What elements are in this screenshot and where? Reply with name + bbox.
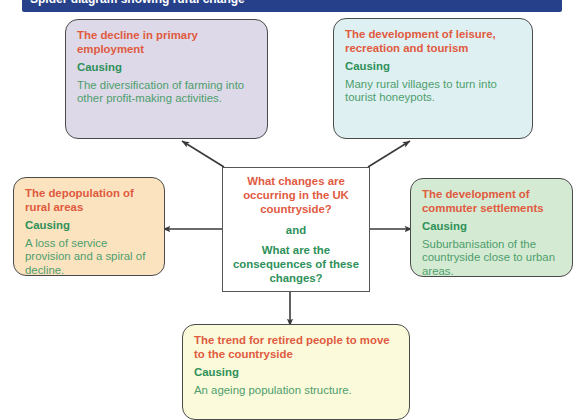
node-title: The depopulation of rural areas: [25, 187, 153, 214]
node-leisure-tourism: The development of leisure, recreation a…: [333, 18, 533, 139]
node-title: The decline in primary employment: [77, 29, 256, 56]
node-retired-migration: The trend for retired people to move to …: [182, 324, 410, 420]
node-causing-label: Causing: [77, 61, 256, 75]
node-body: A loss of service provision and a spiral…: [25, 237, 153, 276]
node-depopulation: The depopulation of rural areas Causing …: [13, 177, 165, 276]
diagram-canvas: Spider diagram showing rural change The …: [0, 0, 579, 420]
node-title: The development of commuter settlements: [422, 188, 561, 215]
node-body: An ageing population structure.: [194, 384, 398, 398]
node-body: Suburbanisation of the countryside close…: [422, 238, 561, 277]
node-causing-label: Causing: [25, 219, 153, 233]
central-conjunction: and: [229, 223, 363, 237]
node-central-question: What changes are occurring in the UK cou…: [222, 167, 370, 292]
central-question-secondary: What are the consequences of these chang…: [229, 243, 363, 285]
node-causing-label: Causing: [422, 220, 561, 234]
node-causing-label: Causing: [194, 366, 398, 380]
node-title: The development of leisure, recreation a…: [345, 28, 521, 55]
central-question-primary: What changes are occurring in the UK cou…: [229, 174, 363, 216]
node-body: The diversification of farming into othe…: [77, 79, 256, 106]
node-primary-employment: The decline in primary employment Causin…: [65, 19, 268, 139]
node-title: The trend for retired people to move to …: [194, 334, 398, 361]
arrow-to-leisure-tourism: [368, 141, 410, 167]
arrow-to-primary-employment: [182, 141, 224, 167]
node-causing-label: Causing: [345, 60, 521, 74]
node-body: Many rural villages to turn into tourist…: [345, 78, 521, 105]
node-commuter-settlements: The development of commuter settlements …: [410, 178, 573, 277]
